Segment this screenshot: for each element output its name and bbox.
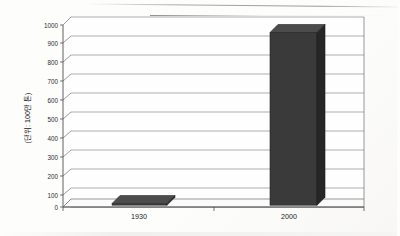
y-axis-title: (단위: 100만 톤): [23, 93, 32, 144]
y-tick-label: 900: [47, 40, 58, 47]
y-tick-label: 0: [54, 204, 58, 211]
y-tick-label: 1000: [44, 22, 59, 29]
x-tick-label-2000: 2000: [281, 212, 297, 221]
y-tick-label: 600: [47, 97, 58, 104]
bar-1930[interactable]: [112, 196, 175, 206]
y-tick-label: 300: [47, 154, 58, 161]
y-tick-label: 500: [47, 116, 58, 123]
x-axis-tick-labels: 1930 2000: [131, 212, 297, 221]
y-tick-label: 200: [47, 173, 58, 180]
y-tick-label: 400: [47, 135, 58, 142]
x-axis-ticks: [63, 207, 364, 211]
y-axis-tick-labels: 1000 900 800 700 600 500 400 300 200 100…: [44, 22, 59, 211]
y-tick-label: 700: [47, 78, 58, 85]
x-tick-label-1930: 1930: [131, 212, 147, 221]
y-tick-label: 800: [47, 59, 58, 66]
bar-2000[interactable]: [270, 25, 325, 206]
y-tick-label: 100: [47, 192, 58, 199]
